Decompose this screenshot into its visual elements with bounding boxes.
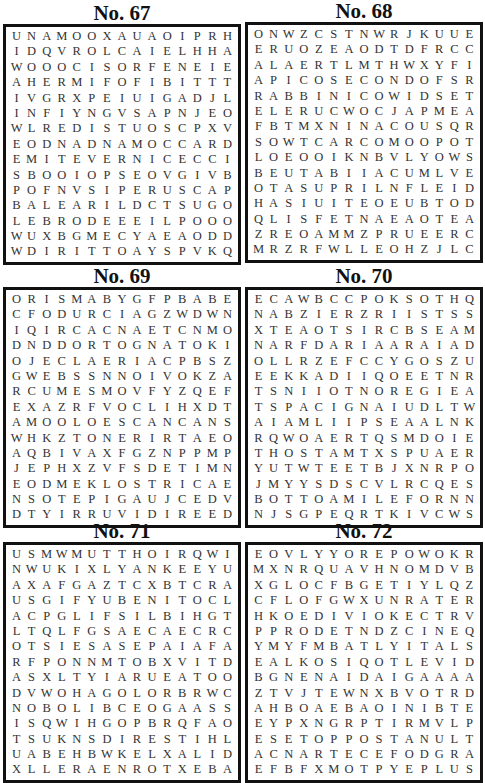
grid-letter: R [24,292,39,307]
grid-letter: E [130,183,145,198]
grid-row: AIAMLIIPSEAALNK [251,415,477,430]
grid-letter: R [341,135,356,150]
grid-row: OLLRZEFCCYGOSZU [251,354,477,369]
grid-letter: W [281,135,296,150]
grid-letter: G [84,624,99,639]
grid-letter: C [175,121,190,136]
grid-letter: R [462,593,477,608]
grid-letter: M [54,29,69,44]
grid-letter: O [160,29,175,44]
grid-letter: O [54,168,69,183]
grid-letter: N [387,593,402,608]
grid-letter: D [462,655,477,670]
grid-letter: I [356,609,371,624]
grid-row: TSUKNSDIRESTIHL [9,732,235,747]
grid-letter: A [356,701,371,716]
grid-letter: R [114,354,129,369]
grid-letter: A [220,762,235,777]
grid-letter: M [341,227,356,242]
grid-letter: E [296,58,311,73]
grid-letter: O [84,431,99,446]
grid-letter: S [114,639,129,654]
grid-letter: X [69,461,84,476]
grid-letter: V [99,461,114,476]
grid-letter: I [462,58,477,73]
grid-letter: S [114,168,129,183]
grid-letter: E [251,42,266,57]
grid-letter: A [84,323,99,338]
grid-letter: T [311,446,326,461]
grid-letter: U [281,42,296,57]
grid-letter: C [266,747,281,762]
grid-letter: F [69,624,84,639]
grid-letter: T [266,323,281,338]
grid-letter: I [175,29,190,44]
grid-letter: R [69,400,84,415]
grid-letter: N [220,461,235,476]
grid-letter: E [9,477,24,492]
grid-letter: X [160,747,175,762]
grid-letter: E [326,461,341,476]
grid-letter: A [39,29,54,44]
grid-letter: C [462,227,477,242]
grid-letter: D [356,670,371,685]
grid-letter: B [281,762,296,777]
grid-row: NOBOLIBCEOGAASS [9,701,235,716]
grid-letter: B [372,150,387,165]
grid-letter: E [326,624,341,639]
grid-letter: E [130,593,145,608]
grid-letter: M [251,242,266,257]
grid-letter: E [145,732,160,747]
grid-letter: I [145,152,160,167]
grid-letter: E [205,384,220,399]
grid-letter: X [251,578,266,593]
grid-letter: N [145,562,160,577]
grid-letter: I [402,89,417,104]
grid-row: PPRODETNDZCINEQ [251,624,477,639]
grid-letter: N [99,137,114,152]
grid-letter: S [266,732,281,747]
grid-letter: S [296,446,311,461]
grid-letter: T [190,75,205,90]
grid-letter: N [114,323,129,338]
grid-letter: M [251,562,266,577]
grid-letter: X [190,400,205,415]
grid-letter: T [341,624,356,639]
grid-letter: K [160,562,175,577]
grid-row: ZTVJTEWNXBVOTRD [251,686,477,701]
grid-letter: U [99,593,114,608]
grid-letter: I [99,670,114,685]
grid-letter: O [39,415,54,430]
grid-letter: B [372,461,387,476]
grid-letter: F [311,212,326,227]
grid-letter: U [402,196,417,211]
grid-letter: I [387,400,402,415]
grid-letter: O [24,137,39,152]
grid-letter: N [402,701,417,716]
grid-letter: P [341,732,356,747]
grid-letter: O [296,431,311,446]
grid-letter: S [69,369,84,384]
grid-letter: A [432,446,447,461]
grid-letter: O [130,369,145,384]
grid-letter: U [130,121,145,136]
grid-letter: N [356,624,371,639]
grid-letter: D [402,73,417,88]
grid-letter: K [39,431,54,446]
grid-letter: E [281,104,296,119]
grid-row: WHKZTONERIRTAEO [9,431,235,446]
grid-letter: E [190,562,205,577]
grid-letter: F [24,655,39,670]
grid-letter: V [175,655,190,670]
grid-letter: H [220,29,235,44]
grid-letter: T [160,762,175,777]
grid-row: ORISMABYGFPBABE [9,292,235,307]
grid-letter: D [39,477,54,492]
grid-letter: O [84,44,99,59]
grid-letter: R [9,384,24,399]
grid-letter: O [387,369,402,384]
grid-letter: Y [266,716,281,731]
grid-letter: C [296,73,311,88]
grid-letter: M [311,639,326,654]
grid-letter: K [296,369,311,384]
